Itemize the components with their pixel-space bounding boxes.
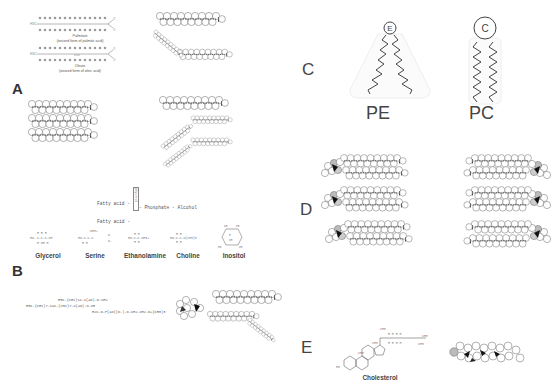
fatty-acid-space-filling-models (150, 10, 250, 80)
svg-text:H3C: H3C (30, 22, 37, 26)
svg-text:H H H H: H H H H (388, 332, 401, 336)
pc-head-letter: C (481, 23, 488, 34)
svg-text:CH3: CH3 (380, 327, 386, 331)
inositol-formula: OHOH HOOH HOH (218, 224, 246, 250)
svg-text:H H: H H (82, 241, 88, 245)
oleate-caption: (ionized form of oleic acid) (40, 69, 120, 74)
panel-c-letter: C (302, 60, 314, 80)
svg-text:H H: H H (134, 240, 140, 244)
svg-text:CH3: CH3 (418, 342, 424, 346)
pe-head-letter: E (387, 24, 392, 33)
alcohol-label-inositol: Inositol (214, 252, 254, 259)
svg-text:H H H H: H H H H (388, 341, 401, 345)
svg-text:O: O (113, 47, 116, 51)
svg-text:O-: O- (108, 239, 112, 243)
phosphatidylcholine-space-filling-model (174, 290, 284, 360)
svg-text:C-C-C-OH: C-C-C-OH (37, 236, 52, 240)
packed-saturated-chains-model (28, 100, 108, 150)
pc-cylinder-shape-diagram: C (455, 12, 515, 107)
palmitate-caption: (ionized form of palmitic acid) (40, 39, 120, 44)
phosphatidylcholine-formula: H3C-(CH2)14-C(=O)-O-CH2 H3C-(CH2)7-C=C-(… (26, 297, 165, 315)
svg-text:O: O (113, 28, 116, 32)
svg-text:OH: OH (229, 239, 233, 242)
svg-text:OH: OH (239, 246, 243, 249)
palmitate-formula-diagram: H3C O O (30, 14, 120, 34)
ethanolamine-formula: H HHO-C-C-NH3+H H (128, 231, 164, 245)
svg-text:CH3: CH3 (358, 351, 364, 355)
panel-b-letter: B (12, 262, 23, 279)
packed-unsaturated-chains-model (155, 96, 245, 166)
scheme-fatty-acid-1: Fatty acid - (97, 201, 130, 207)
svg-text:HO-C-C-N(CH3)3: HO-C-C-N(CH3)3 (170, 236, 197, 240)
svg-text:HO-: HO- (30, 236, 36, 240)
svg-text:HO: HO (336, 365, 340, 369)
pc-label: PC (469, 103, 494, 124)
choline-formula: H HHO-C-C-N(CH3)3H H (170, 231, 212, 245)
svg-text:HO-C-C-C: HO-C-C-C (78, 236, 93, 240)
svg-text:HO: HO (218, 246, 222, 249)
svg-text:NH3+: NH3+ (90, 229, 98, 233)
svg-text:H H H: H H H (37, 231, 47, 235)
pc-formula-line-3: H2C-O-P(=O)(O-)-O-CH2-CH2-N+(CH3)3 (26, 309, 165, 315)
alcohol-label-glycerol: Glycerol (28, 252, 68, 259)
phospholipid-bilayer-packing-model (322, 152, 552, 262)
svg-text:CH3: CH3 (422, 334, 428, 338)
svg-text:H H: H H (176, 240, 182, 244)
svg-text:H3C: H3C (30, 52, 37, 56)
glycerol-formula: HO-C-C-C-OH H H HH OH H (30, 230, 70, 246)
scheme-tail: - Phosphate - Alcohol (139, 205, 197, 211)
scheme-backbone: Glycerol (134, 188, 137, 202)
panel-e-letter: E (301, 338, 312, 358)
cholesterol-space-filling-model (448, 336, 528, 370)
svg-text:O: O (113, 17, 116, 21)
panel-a-letter: A (12, 80, 23, 97)
cholesterol-structure-diagram: HO CH3 CH3 CH3 H H H H H H H H CH3 CH3 (336, 318, 432, 373)
svg-text:O: O (113, 58, 116, 62)
svg-text:H OH H: H OH H (37, 241, 49, 245)
oleate-formula-diagram: H3C O O (30, 44, 120, 64)
scheme-fatty-acid-2: Fatty acid - (97, 219, 130, 225)
svg-text:H: H (229, 234, 231, 237)
cholesterol-label: Cholesterol (356, 374, 404, 381)
serine-formula: NH3+HO-C-C-CH H OO- (78, 228, 114, 246)
svg-text:OH: OH (236, 225, 240, 228)
alcohol-label-ethanolamine: Ethanolamine (116, 252, 174, 259)
alcohol-label-serine: Serine (78, 252, 112, 259)
pe-label: PE (366, 103, 390, 124)
svg-text:CH3: CH3 (372, 341, 378, 345)
alcohol-label-choline: Choline (168, 252, 208, 259)
pe-cone-shape-diagram: E (340, 20, 440, 100)
panel-d-letter: D (300, 200, 312, 220)
svg-text:O: O (108, 233, 110, 237)
svg-text:OH: OH (224, 225, 228, 228)
